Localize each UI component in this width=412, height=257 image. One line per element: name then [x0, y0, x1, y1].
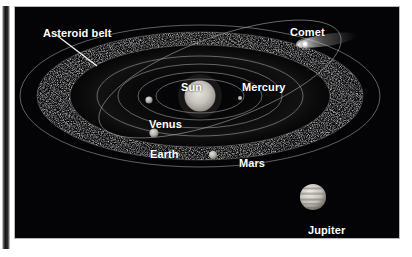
figure-page: Asteroid belt Comet Sun Mercury Venus Ea… — [0, 0, 412, 257]
solar-system-canvas — [15, 7, 399, 238]
label-venus: Venus — [149, 118, 182, 130]
label-jupiter: Jupiter — [308, 224, 345, 236]
label-asteroid-belt: Asteroid belt — [43, 27, 112, 39]
venus-body — [145, 96, 152, 103]
label-sun: Sun — [181, 81, 202, 93]
mercury-body — [238, 96, 242, 100]
label-mars: Mars — [239, 157, 265, 169]
label-earth: Earth — [150, 148, 179, 160]
label-mercury: Mercury — [242, 81, 286, 93]
mars-body — [209, 151, 217, 159]
jupiter-body — [300, 184, 326, 210]
page-binding-edge — [2, 6, 10, 249]
solar-system-figure: Asteroid belt Comet Sun Mercury Venus Ea… — [15, 7, 399, 238]
label-comet: Comet — [290, 26, 325, 38]
